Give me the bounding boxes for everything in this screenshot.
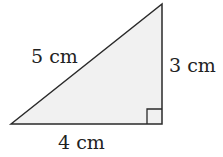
- hypotenuse-label: 5 cm: [31, 45, 78, 67]
- base-label: 4 cm: [58, 131, 105, 153]
- triangle-figure: [0, 0, 223, 157]
- triangle-diagram: 5 cm 3 cm 4 cm: [0, 0, 223, 157]
- vertical-side-label: 3 cm: [169, 54, 216, 76]
